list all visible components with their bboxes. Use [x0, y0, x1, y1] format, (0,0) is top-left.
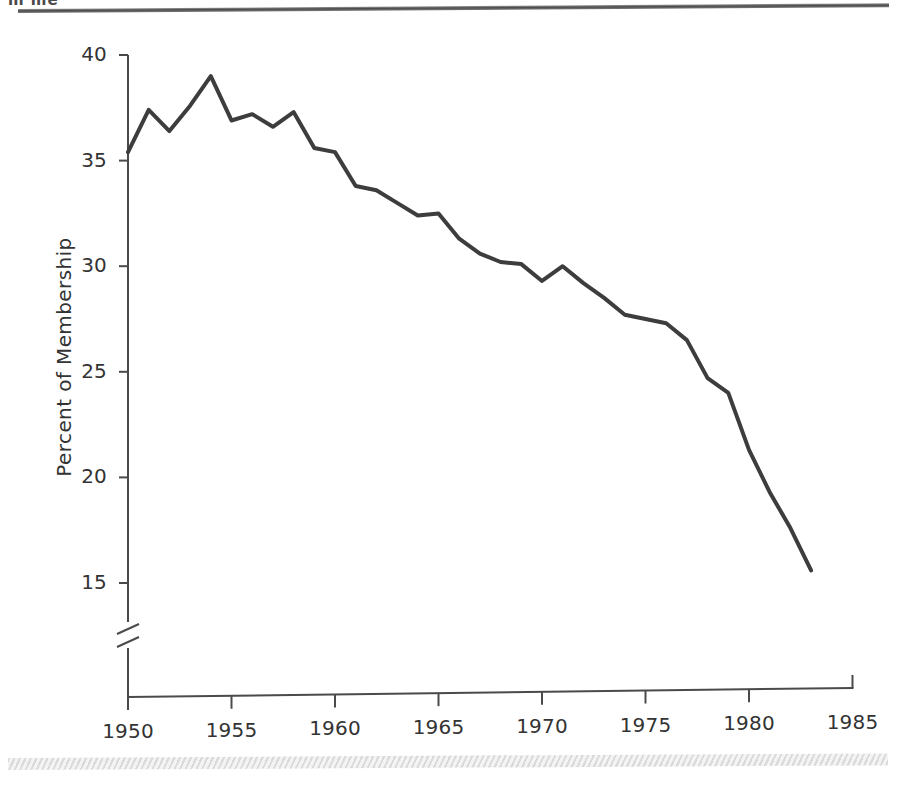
x-tick-label: 1955: [192, 718, 272, 742]
x-tick-label: 1950: [88, 719, 168, 743]
y-tick-label: 35: [47, 148, 107, 172]
chart-plot-area: [0, 0, 907, 786]
y-tick-label: 30: [47, 253, 107, 277]
x-tick-label: 1980: [709, 711, 789, 735]
chart-axes: [117, 55, 853, 710]
x-tick-label: 1970: [502, 714, 582, 738]
chart-series: [128, 76, 811, 570]
x-tick-label: 1965: [399, 715, 479, 739]
y-tick-label: 15: [47, 570, 107, 594]
x-tick-label: 1975: [606, 713, 686, 737]
scanned-page: m me Percent of Membership 152025303540 …: [0, 0, 907, 786]
x-tick-label: 1985: [813, 710, 893, 734]
y-tick-label: 25: [47, 359, 107, 383]
y-tick-label: 20: [47, 464, 107, 488]
y-tick-label: 40: [47, 42, 107, 66]
line-chart: Percent of Membership 152025303540 19501…: [0, 0, 907, 786]
x-tick-label: 1960: [295, 716, 375, 740]
